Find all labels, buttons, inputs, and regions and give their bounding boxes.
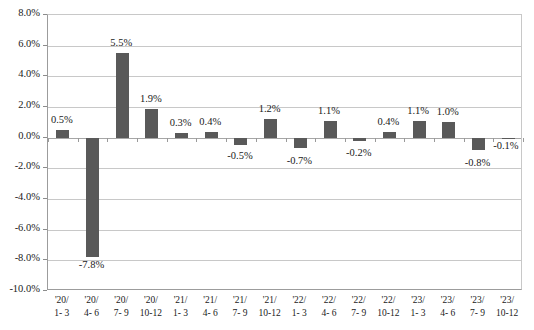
x-axis-tick-mark [256,138,257,142]
bar [145,109,158,138]
y-axis-tick-label: -4.0% [15,191,40,202]
gridline [48,168,521,169]
x-axis-tick-mark [107,138,108,142]
data-label: 1.0% [425,106,471,118]
x-axis-tick-mark [78,138,79,142]
gridline [48,260,521,261]
y-axis-tick-mark [43,290,47,291]
bar [56,130,69,138]
bar [175,133,188,138]
bar-chart: 8.0%6.0%4.0%2.0%0.0%-2.0%-4.0%-6.0%-8.0%… [0,0,534,330]
bar [413,121,426,138]
x-axis-tick-mark [167,138,168,142]
bar [116,53,129,137]
x-axis-tick-mark [48,138,49,142]
plot-area [47,14,522,290]
data-label: -0.5% [217,150,263,162]
data-label: 0.4% [365,116,411,128]
bar [324,121,337,138]
bar [442,122,455,137]
x-axis-tick-mark [137,138,138,142]
y-axis-tick-label: 0.0% [18,130,40,141]
bar [86,138,99,258]
bar [264,119,277,137]
bar [383,132,396,138]
y-axis-tick-label: 4.0% [18,68,40,79]
data-label: -0.2% [336,147,382,159]
bar [472,138,485,150]
bar [353,138,366,141]
data-label: -0.8% [454,157,500,169]
data-label: -0.7% [276,155,322,167]
data-label: -0.1% [493,140,534,152]
data-label: 1.2% [247,103,293,115]
gridline [48,199,521,200]
gridline [48,230,521,231]
y-axis-tick-label: -6.0% [15,222,40,233]
data-label: 0.5% [39,114,85,126]
data-label: 1.1% [306,105,352,117]
zero-line [48,138,521,139]
x-axis-tick-mark [404,138,405,142]
y-axis-tick-label: 6.0% [18,38,40,49]
x-axis-tick-mark [315,138,316,142]
data-label: 5.5% [98,37,144,49]
x-axis-tick-mark [434,138,435,142]
x-axis-tick-mark [196,138,197,142]
x-axis-tick-mark [464,138,465,142]
bar [234,138,247,146]
y-axis-tick-label: 2.0% [18,99,40,110]
x-axis-category-months: 10-12 [484,307,530,320]
x-axis-category-year: '23/ [484,294,530,307]
x-axis-tick-mark [375,138,376,142]
y-axis-tick-label: 8.0% [18,7,40,18]
bar [294,138,307,149]
x-axis-tick-mark [286,138,287,142]
bar [502,138,515,140]
x-axis-tick-mark [226,138,227,142]
x-axis-category-label: '23/10-12 [484,294,530,319]
x-axis-tick-mark [345,138,346,142]
y-axis-tick-label: -2.0% [15,160,40,171]
y-axis-tick-label: -10.0% [9,283,40,294]
bar [205,132,218,138]
data-label: -7.8% [69,259,115,271]
data-label: 1.9% [128,93,174,105]
data-label: 0.4% [187,116,233,128]
y-axis-tick-label: -8.0% [15,252,40,263]
